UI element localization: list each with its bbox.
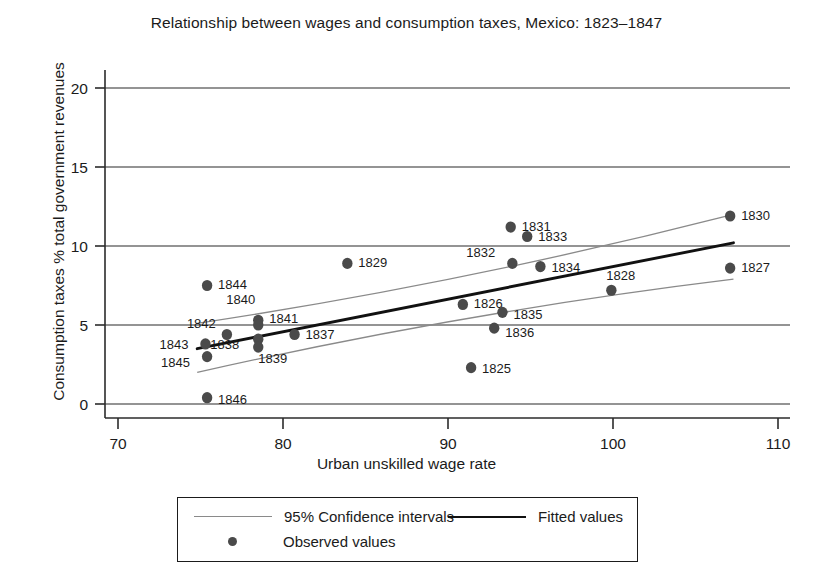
data-point[interactable] [458, 299, 468, 310]
data-point[interactable] [342, 258, 352, 269]
data-point[interactable] [202, 351, 212, 362]
data-point[interactable] [489, 323, 499, 334]
data-point-label: 1829 [358, 255, 387, 270]
data-point-label: 1841 [269, 311, 298, 326]
data-point-label: 1834 [551, 260, 580, 275]
legend-label-ci: 95% Confidence intervals [284, 508, 454, 525]
data-point-label: 1837 [306, 327, 335, 342]
data-point[interactable] [606, 285, 616, 296]
x-tick-label: 110 [766, 435, 791, 452]
data-point[interactable] [222, 329, 232, 340]
data-point-label: 1840 [226, 292, 255, 307]
legend-item-ci: 95% Confidence intervals [194, 508, 454, 525]
chart-figure: Relationship between wages and consumpti… [0, 0, 813, 583]
legend-item-obs: Observed values [194, 533, 396, 550]
y-tick-label: 0 [79, 396, 88, 413]
y-tick-label: 15 [71, 159, 88, 176]
chart-legend: 95% Confidence intervals Fitted values O… [177, 497, 638, 562]
data-point[interactable] [466, 362, 476, 373]
x-tick-label: 90 [439, 435, 457, 452]
ci-line-swatch [194, 516, 272, 517]
x-tick-label: 100 [600, 435, 626, 452]
data-point[interactable] [497, 307, 507, 318]
data-point[interactable] [522, 231, 532, 242]
data-point-label: 1827 [741, 260, 770, 275]
data-point-label: 1833 [538, 229, 567, 244]
fit-line-swatch [448, 516, 526, 518]
data-point-label: 1843 [159, 337, 188, 352]
data-point-label: 1846 [218, 392, 247, 407]
data-point[interactable] [289, 329, 299, 340]
data-point-label: 1836 [505, 325, 534, 340]
data-point-label: 1845 [161, 355, 190, 370]
x-tick-label: 80 [274, 435, 292, 452]
y-tick-label: 20 [71, 80, 89, 97]
data-point[interactable] [725, 210, 735, 221]
legend-label-fit: Fitted values [538, 508, 623, 525]
y-tick-label: 5 [79, 317, 88, 334]
plot-area: 0510152070809010011018251826182718281829… [0, 0, 813, 583]
x-tick-label: 70 [109, 435, 127, 452]
observed-dot-swatch [228, 537, 237, 546]
data-point-label: 1842 [187, 316, 216, 331]
data-point[interactable] [506, 221, 516, 232]
legend-item-fit: Fitted values [448, 508, 623, 525]
data-point[interactable] [725, 263, 735, 274]
data-point[interactable] [535, 261, 545, 272]
legend-label-obs: Observed values [283, 533, 396, 550]
data-point[interactable] [507, 258, 517, 269]
data-point-label: 1830 [741, 208, 770, 223]
data-point[interactable] [253, 319, 263, 330]
data-point-label: 1825 [482, 361, 511, 376]
fitted-values-line [197, 243, 733, 349]
data-point-label: 1844 [218, 277, 247, 292]
data-point[interactable] [202, 392, 212, 403]
data-point[interactable] [200, 338, 210, 349]
data-point[interactable] [202, 280, 212, 291]
data-point-label: 1835 [513, 307, 542, 322]
data-point-label: 1839 [258, 351, 287, 366]
data-point-label: 1832 [466, 245, 495, 260]
y-tick-label: 10 [71, 238, 89, 255]
data-point-label: 1828 [606, 268, 635, 283]
